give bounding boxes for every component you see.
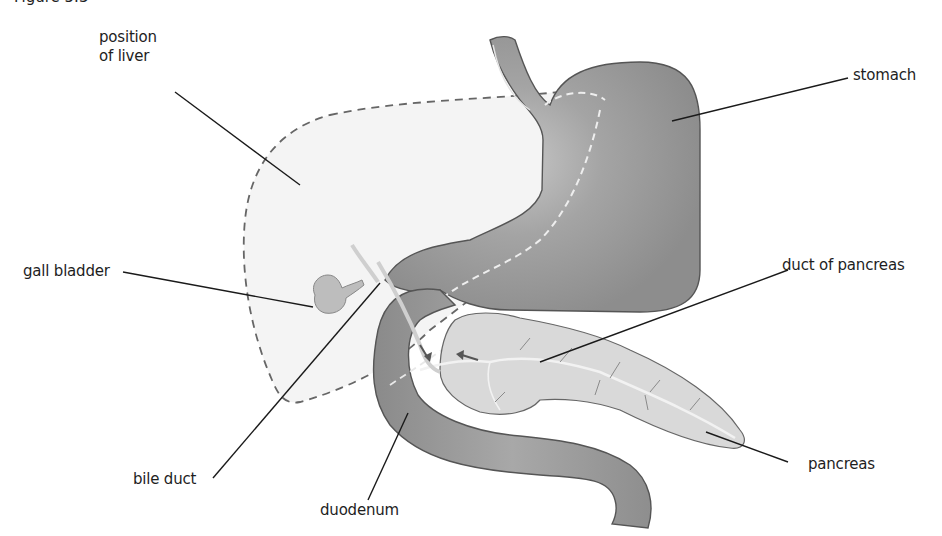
label-gall-bladder: gall bladder [23, 262, 110, 281]
leader-line-liver [175, 92, 300, 185]
label-duodenum: duodenum [320, 501, 399, 520]
label-duct-of-pancreas: duct of pancreas [782, 256, 905, 275]
label-liver-line-2: of liver [99, 47, 157, 66]
leader-line-duodenum [368, 413, 408, 500]
label-pancreas: pancreas [808, 455, 875, 474]
anatomy-diagram: Figure 5.3 [0, 0, 942, 536]
leader-line-stomach [672, 78, 848, 121]
label-liver-line-1: position [99, 28, 157, 47]
label-bile-duct: bile duct [133, 470, 196, 489]
label-stomach: stomach [853, 66, 916, 85]
label-position-of-liver: position of liver [99, 28, 157, 66]
leader-line-pancreas [706, 432, 788, 462]
